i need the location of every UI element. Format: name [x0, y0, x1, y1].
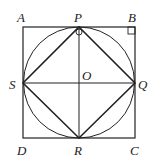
label-s: S [9, 77, 16, 92]
label-a: A [16, 10, 25, 25]
label-b: B [128, 10, 136, 25]
label-o: O [82, 68, 92, 83]
right-angle-marker-b [128, 27, 135, 34]
label-q: Q [138, 77, 148, 92]
label-p: P [73, 10, 82, 25]
label-c: C [130, 143, 139, 158]
geometry-diagram: A P B S O Q D R C [0, 0, 156, 164]
label-r: R [73, 143, 82, 158]
label-d: D [16, 143, 27, 158]
